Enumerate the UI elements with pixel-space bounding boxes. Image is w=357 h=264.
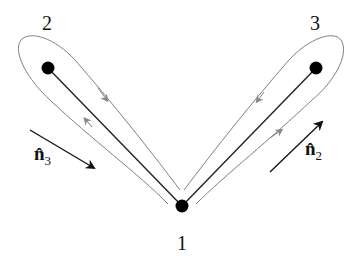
vector-n2-label: n̂2 — [305, 138, 322, 163]
loop-arrow-2a — [98, 88, 106, 99]
node-3-label: 3 — [310, 12, 320, 34]
node-1-label: 1 — [177, 232, 187, 254]
node-1 — [176, 200, 189, 213]
vector-n2-symbol: n̂ — [305, 138, 316, 159]
vector-n3-label: n̂3 — [34, 143, 51, 168]
edge-1-3 — [182, 68, 316, 206]
edge-1-2 — [48, 68, 182, 206]
vector-n2-subscript: 2 — [316, 148, 323, 163]
loop-arrow-3b — [270, 131, 280, 138]
node-3 — [310, 62, 323, 75]
diagram-canvas: 2 3 1 n̂3 n̂2 — [0, 0, 357, 264]
node-2-label: 2 — [42, 12, 52, 34]
loop-arrow-2b — [86, 120, 92, 127]
vector-n3-symbol: n̂ — [34, 143, 45, 164]
vector-n3-subscript: 3 — [45, 153, 52, 168]
node-2 — [42, 62, 55, 75]
